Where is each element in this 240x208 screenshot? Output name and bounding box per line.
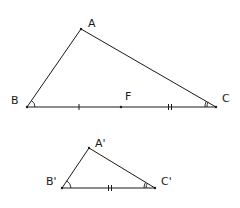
vertex-c-prime	[154, 187, 156, 189]
triangle-a-prime-b-prime-c-prime: A' B' C'	[46, 137, 172, 191]
side-ab	[27, 29, 81, 107]
geometry-diagram: A B C F A' B' C'	[0, 0, 240, 208]
label-c-prime: C'	[161, 175, 172, 188]
vertex-a-prime	[88, 147, 90, 149]
side-a-prime-c-prime	[89, 148, 155, 188]
label-c: C	[222, 92, 230, 105]
point-f	[120, 106, 122, 108]
label-a-prime: A'	[95, 137, 106, 150]
label-a: A	[88, 17, 96, 30]
side-ac	[81, 29, 216, 107]
label-f: F	[125, 90, 131, 103]
angle-mark-c-prime	[146, 183, 147, 188]
vertex-b	[26, 106, 28, 108]
angle-mark-c-prime-2	[144, 182, 146, 188]
angle-mark-c	[207, 102, 208, 107]
vertex-a	[80, 28, 82, 30]
label-b-prime: B'	[46, 175, 57, 188]
angle-mark-b	[32, 101, 36, 108]
side-a-prime-b-prime	[62, 148, 89, 188]
vertex-b-prime	[61, 187, 63, 189]
triangle-abc: A B C F	[11, 17, 230, 110]
label-b: B	[11, 94, 19, 107]
angle-mark-b-prime	[67, 181, 71, 188]
vertex-c	[215, 106, 217, 108]
angle-mark-c-2	[205, 101, 206, 107]
